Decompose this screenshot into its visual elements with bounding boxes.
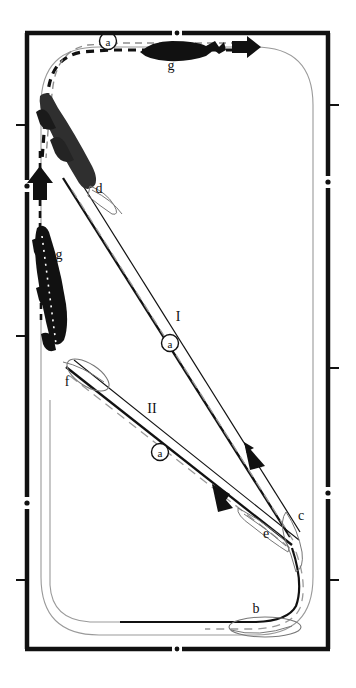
label-c: c bbox=[298, 508, 304, 523]
arrow-right-top bbox=[232, 36, 261, 58]
label-roman-I: I bbox=[176, 309, 181, 324]
arrow-up-left bbox=[27, 166, 53, 200]
figure-canvas: a a a b c d e f g g I II bbox=[0, 0, 356, 688]
label-a-top-text: a bbox=[106, 36, 111, 48]
label-g-top: g bbox=[168, 58, 175, 73]
diagram-svg: a a a b c d e f g g I II bbox=[0, 0, 356, 688]
label-a-limb-II: a bbox=[152, 444, 169, 461]
label-a-limb-I-text: a bbox=[168, 338, 173, 350]
label-a-limb-II-text: a bbox=[158, 447, 163, 459]
organism-g-left bbox=[32, 226, 67, 351]
organism-d bbox=[36, 93, 122, 214]
label-f: f bbox=[65, 374, 70, 389]
limb-I-lines bbox=[63, 176, 300, 545]
label-d: d bbox=[96, 181, 103, 196]
label-roman-II: II bbox=[147, 401, 157, 416]
arrow-upleft-lower bbox=[212, 484, 233, 512]
label-g-left: g bbox=[56, 247, 63, 262]
dashed-light-path-bottom bbox=[50, 400, 303, 629]
label-b: b bbox=[253, 601, 260, 616]
arrow-upleft-upper bbox=[244, 442, 265, 470]
label-a-limb-I: a bbox=[162, 335, 179, 352]
label-e: e bbox=[263, 526, 269, 541]
